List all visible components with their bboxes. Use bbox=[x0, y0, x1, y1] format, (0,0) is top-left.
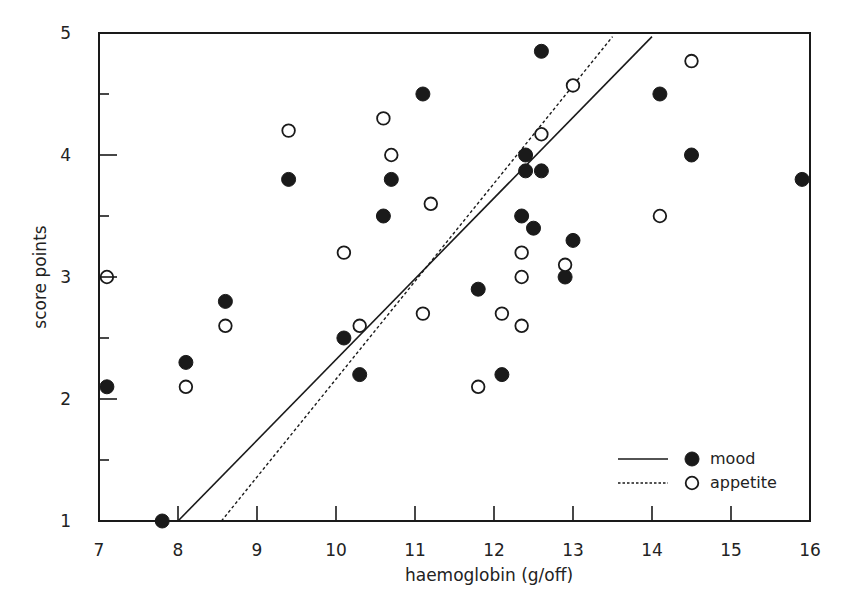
y-tick-label: 2 bbox=[60, 389, 71, 409]
mood-point bbox=[653, 87, 667, 101]
mood-point bbox=[519, 164, 533, 178]
x-tick-label: 13 bbox=[562, 540, 584, 560]
appetite-point bbox=[180, 381, 193, 394]
regression-lines bbox=[178, 37, 652, 521]
appetite-regression-line bbox=[221, 37, 612, 521]
data-points bbox=[100, 44, 809, 528]
appetite-point bbox=[515, 271, 528, 284]
x-tick-label: 9 bbox=[252, 540, 263, 560]
legend-item-appetite: appetite bbox=[618, 473, 777, 492]
y-axis-label: score points bbox=[30, 225, 50, 328]
mood-point bbox=[155, 514, 169, 528]
mood-point bbox=[534, 164, 548, 178]
legend-label: mood bbox=[710, 449, 755, 468]
mood-point bbox=[495, 368, 509, 382]
x-axis-label: haemoglobin (g/off) bbox=[405, 565, 573, 585]
mood-point bbox=[353, 368, 367, 382]
appetite-point bbox=[353, 320, 366, 333]
appetite-point bbox=[425, 198, 438, 211]
mood-point bbox=[179, 355, 193, 369]
mood-point bbox=[795, 172, 809, 186]
y-tick-label: 5 bbox=[60, 23, 71, 43]
mood-point bbox=[471, 282, 485, 296]
mood-point bbox=[100, 380, 114, 394]
appetite-point bbox=[417, 307, 430, 320]
appetite-point bbox=[515, 246, 528, 259]
appetite-point bbox=[219, 320, 232, 333]
appetite-point bbox=[496, 307, 509, 320]
mood-point bbox=[515, 209, 529, 223]
x-tick-label: 12 bbox=[483, 540, 505, 560]
appetite-point bbox=[338, 246, 351, 259]
x-tick-label: 15 bbox=[720, 540, 742, 560]
appetite-point bbox=[559, 259, 572, 272]
mood-point bbox=[384, 172, 398, 186]
appetite-point bbox=[282, 124, 295, 137]
legend-marker-swatch bbox=[686, 477, 699, 490]
appetite-point bbox=[385, 149, 398, 162]
appetite-point bbox=[377, 112, 390, 125]
mood-point bbox=[376, 209, 390, 223]
x-axis: 78910111213141516 bbox=[94, 506, 821, 560]
y-axis: 12345 bbox=[60, 23, 117, 531]
mood-point bbox=[566, 233, 580, 247]
mood-series bbox=[100, 44, 809, 528]
mood-point bbox=[416, 87, 430, 101]
x-tick-label: 11 bbox=[404, 540, 426, 560]
x-tick-label: 16 bbox=[799, 540, 821, 560]
x-tick-label: 8 bbox=[173, 540, 184, 560]
y-tick-label: 4 bbox=[60, 145, 71, 165]
appetite-point bbox=[535, 128, 548, 141]
legend: moodappetite bbox=[618, 449, 777, 492]
plot-frame bbox=[99, 33, 810, 521]
legend-item-mood: mood bbox=[618, 449, 755, 468]
scatter-chart: 78910111213141516 12345 haemoglobin (g/o… bbox=[0, 0, 854, 611]
x-tick-label: 14 bbox=[641, 540, 663, 560]
appetite-point bbox=[654, 210, 667, 223]
mood-point bbox=[337, 331, 351, 345]
mood-point bbox=[534, 44, 548, 58]
mood-point bbox=[558, 270, 572, 284]
y-tick-label: 1 bbox=[60, 511, 71, 531]
appetite-point bbox=[515, 320, 528, 333]
legend-marker-swatch bbox=[685, 452, 699, 466]
mood-point bbox=[519, 148, 533, 162]
mood-point bbox=[527, 221, 541, 235]
x-tick-label: 7 bbox=[94, 540, 105, 560]
appetite-point bbox=[685, 55, 698, 68]
y-tick-label: 3 bbox=[60, 267, 71, 287]
legend-label: appetite bbox=[710, 473, 777, 492]
x-tick-label: 10 bbox=[325, 540, 347, 560]
mood-point bbox=[282, 172, 296, 186]
mood-point bbox=[685, 148, 699, 162]
mood-point bbox=[218, 294, 232, 308]
appetite-point bbox=[567, 79, 580, 92]
appetite-series bbox=[101, 55, 698, 393]
mood-regression-line bbox=[178, 37, 652, 521]
appetite-point bbox=[472, 381, 485, 394]
plot-border bbox=[99, 33, 810, 521]
